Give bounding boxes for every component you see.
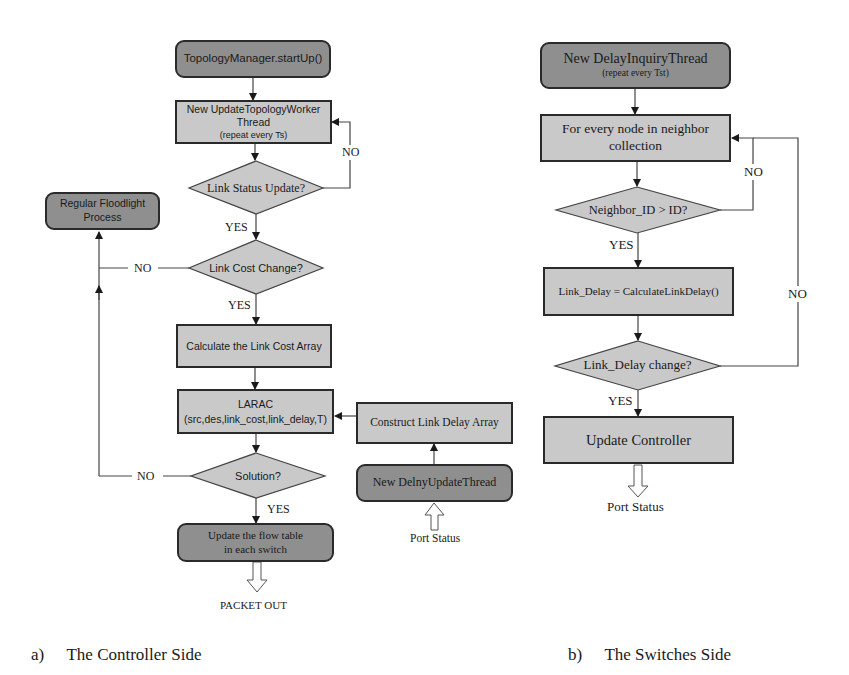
inquiry-label-2: (repeat every Tst) — [602, 68, 669, 79]
floodlight-label-2: Process — [84, 211, 122, 225]
larac-label-2: (src,des,link_cost,link_delay,T) — [184, 412, 327, 426]
larac-label-1: LARAC — [238, 397, 273, 411]
yes-solution-label: YES — [267, 502, 290, 517]
packet-out-label: PACKET OUT — [220, 599, 287, 611]
port-status-left-label: Port Status — [410, 532, 460, 544]
caption-b-text: The Switches Side — [604, 645, 731, 664]
for-every-node: For every node in neighbor collection — [540, 114, 731, 162]
caption-a-letter: a) — [31, 645, 44, 664]
yes-delay-label: YES — [608, 393, 633, 409]
delay-update-thread-node: New DelnyUpdateThread — [356, 464, 513, 502]
link-status-label: Link Status Update? — [189, 180, 323, 196]
for-every-label-1: For every node in neighbor — [562, 121, 709, 138]
no-cost-label: NO — [134, 261, 151, 276]
worker-label-1: New UpdateTopologyWorker — [187, 103, 320, 116]
solution-label: Solution? — [191, 468, 325, 484]
port-status-right-label: Port Status — [607, 499, 664, 515]
startup-label: TopologyManager.startUp() — [184, 52, 323, 65]
flowchart-connectors — [0, 0, 849, 675]
caption-a-text: The Controller Side — [66, 645, 201, 664]
worker-label-2: Thread — [237, 116, 270, 129]
link-cost-label: Link Cost Change? — [189, 260, 323, 276]
link-delay-change-label: Link_Delay change? — [555, 357, 720, 373]
port-status-arrow-left — [425, 503, 444, 530]
update-flow-table-node: Update the flow table in each switch — [177, 523, 334, 562]
construct-delay-label: Construct Link Delay Array — [370, 416, 499, 429]
yes-cost-label: YES — [228, 298, 251, 313]
packet-out-arrow — [247, 562, 267, 592]
update-flow-label-1: Update the flow table — [208, 529, 303, 543]
delay-inquiry-node: New DelayInquiryThread (repeat every Tst… — [540, 42, 731, 89]
port-status-arrow-right — [628, 465, 648, 497]
no-status-label: NO — [342, 145, 359, 160]
larac-node: LARAC (src,des,link_cost,link_delay,T) — [177, 389, 334, 434]
caption-b-letter: b) — [568, 645, 582, 664]
worker-label-3: (repeat every Ts) — [220, 130, 287, 141]
inquiry-label-1: New DelayInquiryThread — [563, 51, 707, 68]
caption-switches-side: b) The Switches Side — [568, 645, 731, 665]
update-controller-label: Update Controller — [586, 432, 691, 449]
floodlight-label-1: Regular Floodlight — [60, 197, 145, 211]
floodlight-node: Regular Floodlight Process — [45, 192, 160, 230]
link-delay-calc-label: Link_Delay = CalculateLinkDelay() — [558, 285, 718, 298]
no-solution-label: NO — [137, 469, 154, 484]
update-controller-node: Update Controller — [543, 416, 734, 464]
calc-cost-label: Calculate the Link Cost Array — [186, 340, 321, 352]
calc-cost-node: Calculate the Link Cost Array — [176, 324, 332, 368]
construct-delay-node: Construct Link Delay Array — [356, 402, 513, 444]
yes-status-label: YES — [225, 220, 248, 235]
yes-neighbor-label: YES — [609, 237, 634, 253]
no-delay-label: NO — [788, 286, 807, 302]
caption-controller-side: a) The Controller Side — [31, 645, 202, 665]
link-delay-calc-node: Link_Delay = CalculateLinkDelay() — [543, 267, 734, 316]
no-neighbor-label: NO — [744, 164, 763, 180]
for-every-label-2: collection — [609, 138, 662, 155]
startup-node: TopologyManager.startUp() — [175, 40, 331, 78]
neighbor-check-label: Neighbor_ID > ID? — [556, 202, 720, 218]
delay-update-thread-label: New DelnyUpdateThread — [373, 476, 497, 490]
update-flow-label-2: in each switch — [224, 543, 287, 557]
update-topology-worker-node: New UpdateTopologyWorker Thread (repeat … — [175, 100, 332, 144]
